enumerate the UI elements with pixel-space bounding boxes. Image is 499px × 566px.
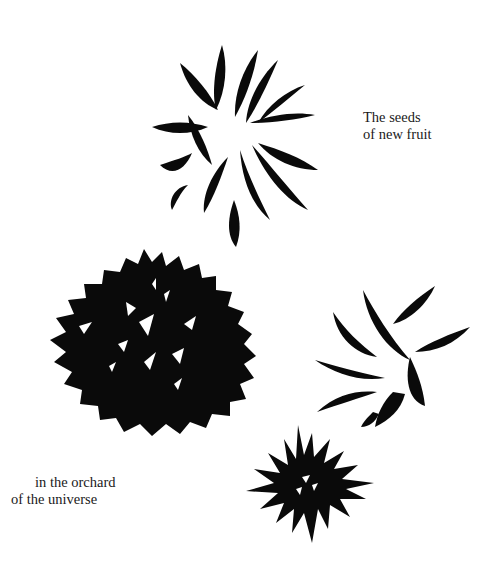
brush-flower-top-illustration [150,35,330,255]
brush-flower-right-illustration [305,282,475,427]
caption-top-line-1: The seeds [363,109,431,126]
brush-flower-small-spiky-illustration [240,425,380,550]
caption-seeds-of-new-fruit: The seeds of new fruit [363,109,431,143]
caption-top-line-2: of new fruit [363,126,431,143]
caption-bottom-line-2: of the universe [11,491,116,508]
brush-flower-large-round-illustration [44,244,264,439]
caption-orchard-of-universe: in the orchard of the universe [11,474,116,508]
caption-bottom-line-1: in the orchard [11,474,116,491]
